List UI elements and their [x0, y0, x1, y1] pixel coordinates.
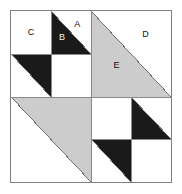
- triangle-dark-upper-right: [11, 54, 51, 97]
- cell-bottom-right-top-right: [131, 97, 171, 140]
- triangle-region-b: [51, 11, 91, 54]
- cell-bottom-right-bottom-left: [91, 139, 131, 182]
- triangle-region-e: [91, 11, 171, 97]
- quadrant-bottom-right: [91, 97, 171, 183]
- quadrant-bottom-left: [11, 97, 91, 183]
- cell-region-c: C: [11, 11, 51, 54]
- quilt-block-outline: C A B D E: [10, 10, 172, 183]
- region-label-e: E: [113, 61, 119, 70]
- region-label-c: C: [28, 28, 35, 37]
- region-label-a: A: [74, 20, 80, 29]
- region-label-b: B: [59, 33, 65, 42]
- cell-top-left-bottom-right: [51, 54, 91, 97]
- figure-canvas: C A B D E: [0, 0, 182, 194]
- cell-bottom-right-bottom-right: [131, 139, 171, 182]
- quadrant-top-right: D E: [91, 11, 171, 97]
- cell-bottom-left-gray: [11, 97, 91, 183]
- cell-region-ab: A B: [51, 11, 91, 54]
- cell-bottom-right-top-left: [91, 97, 131, 140]
- triangle-dark-upper-right-br: [91, 139, 131, 182]
- triangle-gray-upper-right: [11, 97, 91, 183]
- gridline-horizontal-bottom-right: [91, 139, 171, 140]
- gridline-block-horizontal: [11, 97, 171, 98]
- cell-region-de: D E: [91, 11, 171, 97]
- cell-top-left-bottom-left: [11, 54, 51, 97]
- gridline-horizontal-top-left: [11, 54, 91, 55]
- triangle-dark-lower-left-br: [131, 97, 171, 140]
- quadrant-top-left: C A B: [11, 11, 91, 97]
- region-label-d: D: [142, 30, 149, 39]
